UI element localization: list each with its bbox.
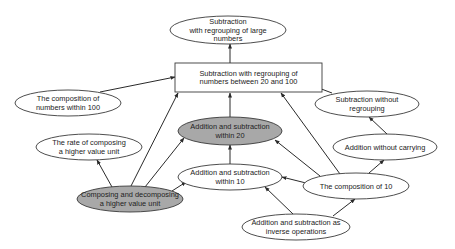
- edge-comp_10-to-add_sub_20: [275, 140, 320, 176]
- node-rate-composing: The rate of composinga higher value unit: [36, 134, 142, 160]
- edge-inverse_ops-to-add_sub_10: [265, 187, 293, 214]
- node-label: numbers between 20 and 100: [200, 77, 298, 86]
- node-composing-decomposing: Composing and decomposinga higher value …: [77, 186, 183, 212]
- node-comp-100: The composition ofnumbers within 100: [15, 90, 121, 116]
- edge-comp_10-to-add_no_carry: [369, 160, 384, 173]
- node-add-no-carry: Addition without carrying: [333, 134, 437, 160]
- node-label: Addition without carrying: [345, 143, 426, 152]
- node-label: within 20: [214, 131, 244, 140]
- node-add-sub-10: Addition and subtractionwithin 10: [178, 164, 282, 190]
- edge-composing_decomposing-to-add_sub_20: [145, 138, 184, 187]
- node-label: a higher value unit: [100, 199, 160, 208]
- node-label: The composition of 10: [320, 182, 393, 191]
- node-label: inverse operations: [266, 227, 327, 236]
- edge-inverse_ops-to-comp_10: [333, 199, 355, 216]
- edge-add_no_carry-to-sub_no_regroup: [369, 117, 387, 134]
- node-sub-20-100: Subtraction with regrouping ofnumbers be…: [175, 63, 322, 92]
- node-inverse-ops: Addition and subtraction asinverse opera…: [242, 214, 350, 240]
- node-comp-10: The composition of 10: [303, 173, 409, 199]
- nodes-layer: Subtractionwith regrouping of largenumbe…: [15, 16, 437, 240]
- node-label: numbers: [214, 34, 243, 43]
- edge-comp_10-to-add_sub_10: [282, 177, 306, 183]
- node-label: numbers within 100: [36, 103, 100, 112]
- node-sub-no-regroup: Subtraction withoutregrouping: [315, 91, 419, 117]
- node-label: regrouping: [349, 104, 384, 113]
- concept-map: Subtractionwith regrouping of largenumbe…: [0, 0, 455, 249]
- node-add-sub-20: Addition and subtractionwithin 20: [178, 117, 282, 145]
- node-label: a higher value unit: [59, 147, 119, 156]
- edge-composing_decomposing-to-rate_composing: [97, 160, 112, 187]
- node-label: within 10: [214, 177, 244, 186]
- edge-composing_decomposing-to-sub_20_100: [131, 93, 178, 186]
- edge-comp_100-to-sub_20_100: [100, 77, 175, 92]
- node-sub-large: Subtractionwith regrouping of largenumbe…: [170, 16, 286, 44]
